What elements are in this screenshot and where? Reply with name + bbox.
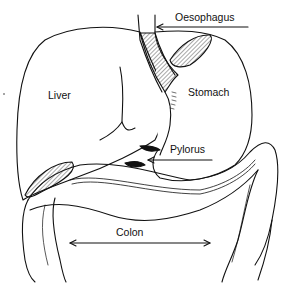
stomach-label: Stomach xyxy=(188,86,229,98)
diagram-drawing xyxy=(0,0,282,285)
liver-label: Liver xyxy=(48,89,71,101)
colon-label: Colon xyxy=(116,226,143,238)
anatomy-diagram: Oesophagus Liver Stomach Pylorus Colon xyxy=(0,0,282,285)
pylorus-label: Pylorus xyxy=(170,143,205,155)
oesophagus-label: Oesophagus xyxy=(175,11,235,23)
liver-outline xyxy=(17,27,168,200)
